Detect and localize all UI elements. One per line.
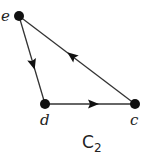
node-e [14,11,24,21]
node-label-d: d [40,111,50,129]
edge-c-to-e [19,16,135,104]
node-d [40,99,50,109]
node-label-e: e [1,7,10,25]
edge-e-to-d [19,16,45,104]
node-c [130,99,140,109]
caption-main: C [82,132,94,152]
caption-subscript: 2 [94,141,102,155]
cycle-graph-c2: e d c C2 [0,0,156,163]
node-label-c: c [130,111,139,129]
arrowhead-e-to-d-icon [27,58,39,71]
arrowhead-c-to-e-icon [65,49,79,63]
graph-caption: C2 [82,132,102,155]
